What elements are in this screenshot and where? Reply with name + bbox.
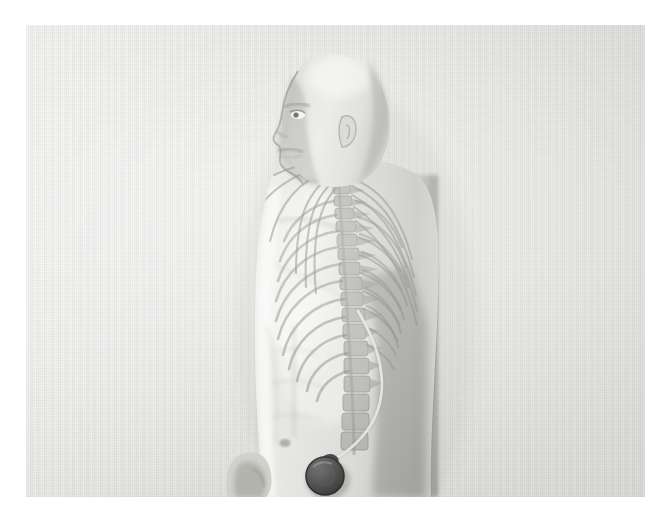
image-canvas: Male torso in right-facing profile with … (0, 0, 658, 521)
eye-iris (293, 112, 298, 117)
navel (280, 439, 291, 447)
head (274, 54, 390, 187)
photograph-plate (26, 25, 645, 497)
hand (226, 452, 272, 497)
scalp-highlight (306, 57, 370, 97)
male-torso-figure (26, 25, 645, 497)
